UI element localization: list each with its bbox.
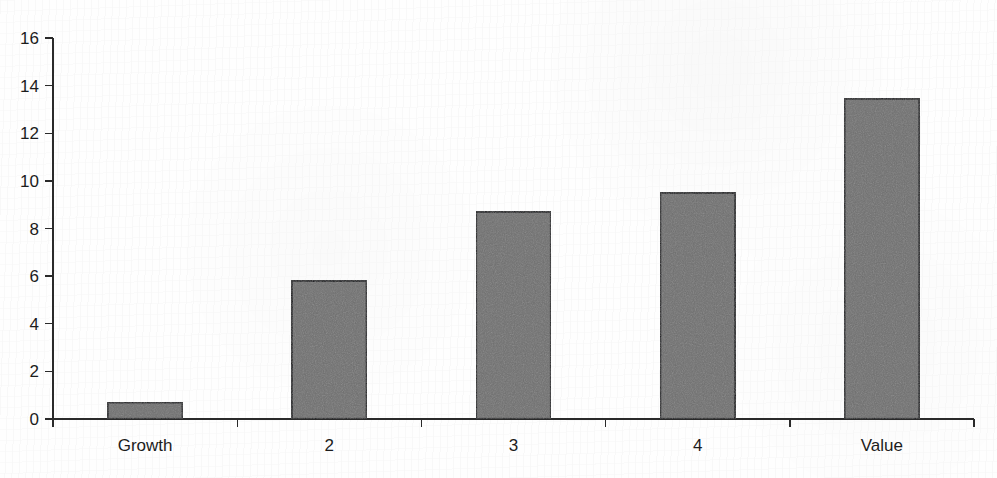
- y-tick-label: 2: [30, 362, 39, 381]
- bar-value[interactable]: [844, 99, 919, 419]
- y-tick-label: 6: [30, 267, 39, 286]
- x-tick-label: 2: [325, 436, 334, 455]
- bar-4[interactable]: [660, 193, 735, 419]
- y-tick-label: 10: [20, 172, 39, 191]
- bar-series: [108, 99, 920, 419]
- x-tick-label: 3: [509, 436, 518, 455]
- bar-2[interactable]: [292, 281, 367, 419]
- x-tick-label: Growth: [118, 436, 173, 455]
- x-tick-label: 4: [693, 436, 702, 455]
- y-tick-label: 12: [20, 124, 39, 143]
- y-tick-label: 8: [30, 220, 39, 239]
- chart-page: 0246810121416 Growth234Value: [0, 0, 997, 478]
- x-tick-label: Value: [861, 436, 903, 455]
- y-tick-label: 14: [20, 77, 39, 96]
- x-axis-ticks: [53, 419, 974, 427]
- y-axis-ticks: 0246810121416: [20, 29, 53, 429]
- x-axis-tick-labels: Growth234Value: [118, 436, 903, 455]
- bar-3[interactable]: [476, 212, 551, 419]
- y-tick-label: 4: [30, 315, 39, 334]
- y-tick-label: 16: [20, 29, 39, 48]
- bar-growth[interactable]: [108, 402, 183, 419]
- bar-chart: 0246810121416 Growth234Value: [0, 0, 997, 478]
- y-tick-label: 0: [30, 410, 39, 429]
